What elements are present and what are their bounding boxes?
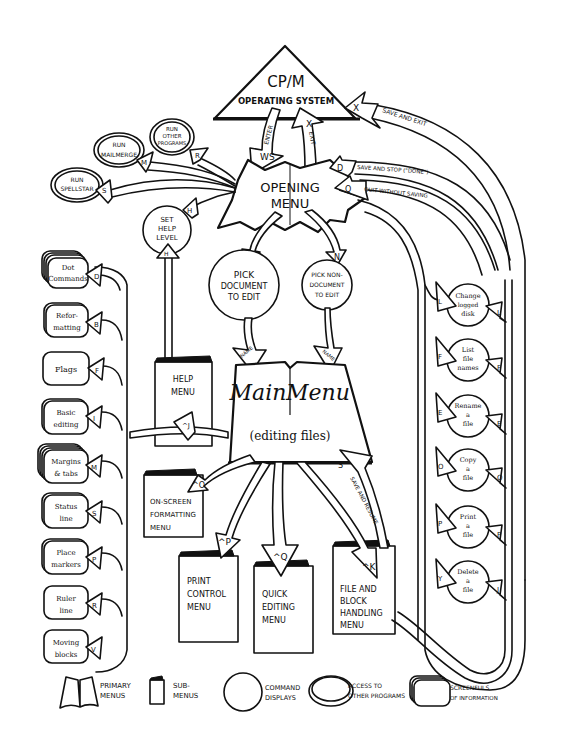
run-spellstar[interactable]: RUN SPELLSTAR S [51, 168, 235, 203]
svg-text:CONTROL: CONTROL [187, 590, 227, 599]
help-screen-status-line[interactable]: Status line S [42, 493, 122, 528]
save-and-resume-arrow: S SAVE AND RESUME [338, 450, 388, 548]
help-screen-moving-blocks[interactable]: Moving blocks V [44, 630, 102, 663]
svg-text:HANDLING: HANDLING [340, 609, 383, 618]
svg-text:D: D [94, 273, 99, 281]
svg-text:J: J [496, 586, 499, 594]
legend-primary-menus: PRIMARY MENUS [60, 677, 131, 708]
svg-text:Print: Print [460, 513, 477, 521]
main-menu-left: Main [229, 380, 287, 405]
svg-text:MENU: MENU [187, 603, 211, 612]
svg-text:E: E [497, 420, 501, 428]
file-cmd-rename-file[interactable]: Rename a file E E [436, 393, 506, 437]
svg-text:MENU: MENU [340, 621, 364, 630]
svg-text:QUICK: QUICK [262, 590, 288, 599]
pick-nondocument[interactable]: PICK NON- DOCUMENT TO EDIT [302, 260, 352, 310]
svg-text:a: a [466, 465, 470, 473]
svg-text:LEVEL: LEVEL [156, 234, 178, 242]
svg-text:OF INFORMATION: OF INFORMATION [450, 695, 498, 701]
help-screen-ruler-line[interactable]: Ruler line R [44, 586, 122, 619]
svg-text:S: S [338, 461, 343, 470]
help-screen-dot-commands[interactable]: Dot Commands D [42, 251, 102, 288]
file-cmd-print-file[interactable]: Print a file P P [436, 504, 506, 548]
svg-text:MENU: MENU [150, 524, 171, 532]
svg-text:S: S [102, 187, 107, 195]
submenu-onscreen-formatting[interactable]: ON-SCREEN FORMATTING MENU ^O [144, 455, 255, 537]
svg-text:blocks: blocks [55, 651, 78, 659]
svg-text:RUN: RUN [70, 176, 83, 183]
svg-text:F: F [497, 364, 501, 372]
svg-text:markers: markers [51, 561, 81, 569]
help-screen-reformatting[interactable]: Refor- matting B [44, 303, 122, 340]
svg-text:ACCESS TO: ACCESS TO [348, 682, 382, 689]
svg-text:logged: logged [458, 301, 479, 309]
svg-text:Ruler: Ruler [56, 595, 76, 603]
help-screen-place-markers[interactable]: Place markers P [42, 539, 122, 574]
svg-text:PICK: PICK [234, 270, 255, 280]
submenu-quick-editing[interactable]: QUICK EDITING MENU ^Q [254, 462, 313, 653]
svg-text:disk: disk [461, 310, 475, 318]
svg-text:Status: Status [55, 503, 78, 511]
svg-text:SPELLSTAR: SPELLSTAR [60, 185, 93, 192]
svg-text:PRINT: PRINT [187, 577, 211, 586]
svg-text:^K: ^K [362, 562, 377, 572]
svg-text:RUN: RUN [166, 126, 178, 132]
svg-text:Delete: Delete [457, 568, 479, 576]
svg-text:ON-SCREEN: ON-SCREEN [150, 498, 192, 506]
help-screen-basic-editing[interactable]: Basic editing I [42, 399, 122, 434]
help-screen-margins-tabs[interactable]: Margins & tabs M [38, 444, 122, 483]
svg-text:file: file [463, 474, 473, 482]
svg-text:^O: ^O [192, 481, 205, 490]
svg-text:file: file [463, 586, 473, 594]
svg-text:SCREENFULS: SCREENFULS [450, 684, 489, 691]
exit-key: X [306, 119, 312, 129]
svg-text:DOCUMENT: DOCUMENT [221, 282, 268, 291]
svg-text:OTHER: OTHER [162, 133, 181, 139]
file-cmd-delete-file[interactable]: Delete a file Y J [436, 559, 506, 603]
svg-text:a: a [466, 577, 470, 585]
help-screen-flags[interactable]: Flags F [43, 352, 122, 385]
svg-text:file: file [463, 355, 473, 363]
svg-text:M: M [91, 464, 97, 472]
svg-text:line: line [59, 607, 72, 615]
svg-text:BLOCK: BLOCK [340, 597, 368, 606]
legend: PRIMARY MENUS SUB- MENUS COMMAND DISPLAY… [60, 673, 498, 711]
save-and-stop-arrow: D SAVE AND STOP ("DONE") [330, 156, 510, 270]
svg-text:Y: Y [437, 575, 443, 583]
legend-access-other-programs: ACCESS TO OTHER PROGRAMS [309, 676, 405, 706]
legend-screenfuls: SCREENFULS OF INFORMATION [410, 676, 498, 706]
save-stop-label: SAVE AND STOP ("DONE") [357, 164, 429, 175]
svg-text:file: file [463, 531, 473, 539]
file-cmd-list-file-names[interactable]: List file names F F [436, 337, 506, 381]
stacked-screen-icon [414, 680, 450, 706]
svg-text:Margins: Margins [51, 458, 81, 466]
help-menu[interactable]: H HELP MENU [155, 244, 212, 446]
svg-text:F: F [95, 367, 99, 375]
legend-command-displays: COMMAND DISPLAYS [224, 673, 300, 711]
opening-menu-line1: OPENING [260, 180, 320, 195]
svg-text:S: S [92, 510, 97, 518]
svg-text:file: file [463, 420, 473, 428]
svg-text:^J: ^J [182, 422, 190, 430]
legend-sub-menus: SUB- MENUS [150, 676, 199, 704]
svg-text:P: P [92, 556, 96, 564]
svg-text:TO EDIT: TO EDIT [314, 291, 339, 298]
main-menu[interactable]: Main Menu (editing files) [228, 362, 372, 463]
quit-label: QUIT WITHOUT SAVING [364, 186, 428, 199]
file-cmd-copy-file[interactable]: Copy a file O O [436, 447, 506, 491]
svg-text:Change: Change [455, 292, 480, 300]
svg-text:H: H [164, 250, 169, 257]
svg-text:names: names [457, 364, 478, 372]
file-cmd-change-logged-disk[interactable]: Change logged disk L L [425, 282, 506, 326]
svg-text:PRIMARY: PRIMARY [100, 682, 131, 690]
svg-text:SET: SET [160, 216, 174, 224]
svg-text:MENUS: MENUS [173, 692, 199, 700]
svg-text:MENU: MENU [262, 616, 286, 625]
svg-text:COMMAND: COMMAND [265, 684, 300, 692]
svg-text:DISPLAYS: DISPLAYS [265, 694, 296, 702]
save-stop-key: D [337, 164, 343, 173]
svg-text:Copy: Copy [460, 456, 477, 464]
cpm-operating-system: CP/M OPERATING SYSTEM [213, 46, 360, 119]
svg-text:H: H [187, 207, 192, 215]
pick-document[interactable]: PICK DOCUMENT TO EDIT [209, 250, 279, 320]
